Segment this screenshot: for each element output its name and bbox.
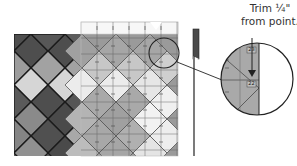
cut-marker	[193, 29, 199, 156]
magnifier	[221, 38, 297, 115]
trim-instruction-callout: Trim ¼" from point.	[240, 2, 297, 28]
callout-line-2: from point.	[240, 15, 297, 28]
leader-line	[177, 62, 222, 80]
ruler-label-22: 22	[247, 80, 256, 87]
callout-line-1: Trim ¼"	[240, 2, 297, 15]
ruler-label-23: 23	[247, 46, 256, 53]
